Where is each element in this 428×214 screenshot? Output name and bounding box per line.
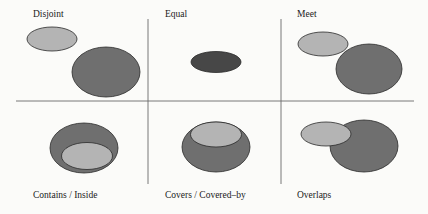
- region-a-ellipse: [301, 122, 351, 146]
- label-overlaps: Overlaps: [297, 191, 331, 201]
- panel-overlaps-graphic: [301, 120, 398, 172]
- region-a-ellipse: [27, 27, 77, 51]
- region-a-ellipse: [62, 143, 113, 170]
- label-equal: Equal: [165, 10, 187, 20]
- region-b-ellipse: [336, 44, 402, 94]
- region-b-ellipse: [72, 47, 140, 97]
- region-ab-ellipse: [191, 52, 241, 73]
- label-disjoint: Disjoint: [33, 10, 64, 20]
- label-meet: Meet: [297, 10, 317, 20]
- region-a-ellipse: [191, 122, 242, 147]
- region-a-ellipse: [298, 32, 348, 56]
- relations-diagram: [0, 0, 428, 214]
- panel-disjoint-graphic: [27, 27, 140, 97]
- panel-meet-graphic: [298, 32, 402, 94]
- label-contains-inside: Contains / Inside: [33, 191, 97, 201]
- panel-covers-graphic: [182, 122, 250, 172]
- panel-equal-graphic: [191, 52, 241, 73]
- panel-contains-graphic: [50, 123, 118, 173]
- label-covers-covered-by: Covers / Covered–by: [165, 191, 246, 201]
